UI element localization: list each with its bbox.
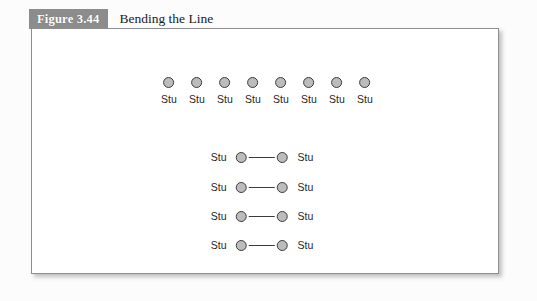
student-node-label: Stu (357, 93, 373, 105)
student-circle-icon (219, 77, 230, 88)
student-node-label: Stu (189, 93, 205, 105)
student-node-label: Stu (161, 93, 177, 105)
student-circle-icon (191, 77, 202, 88)
student-circle-icon (331, 77, 342, 88)
student-node-label: Stu (301, 93, 317, 105)
student-pair-row-1[interactable]: StuStu (211, 151, 314, 163)
student-circle-icon (236, 182, 247, 193)
student-pair-row-2[interactable]: StuStu (211, 181, 314, 193)
pair-right-label: Stu (298, 239, 314, 251)
student-circle-icon (236, 211, 247, 222)
student-pair-row-4[interactable]: StuStu (211, 239, 314, 251)
pair-left-label: Stu (211, 151, 227, 163)
student-circle-icon (277, 152, 288, 163)
student-node-label: Stu (245, 93, 261, 105)
pair-right-label: Stu (298, 151, 314, 163)
student-node-top-4[interactable]: Stu (245, 77, 261, 105)
student-circle-icon (277, 240, 288, 251)
student-circle-icon (247, 77, 258, 88)
pair-left-label: Stu (211, 210, 227, 222)
student-node-top-6[interactable]: Stu (301, 77, 317, 105)
student-node-top-3[interactable]: Stu (217, 77, 233, 105)
student-node-label: Stu (273, 93, 289, 105)
figure-header: Figure 3.44 Bending the Line (29, 9, 213, 29)
student-circle-icon (275, 77, 286, 88)
pair-left-label: Stu (211, 181, 227, 193)
student-circle-icon (303, 77, 314, 88)
pair-connector-line (249, 187, 275, 188)
student-node-top-2[interactable]: Stu (189, 77, 205, 105)
student-circle-icon (163, 77, 174, 88)
student-circle-icon (236, 152, 247, 163)
pair-right-label: Stu (298, 210, 314, 222)
figure-number-badge: Figure 3.44 (29, 9, 108, 29)
pair-right-label: Stu (298, 181, 314, 193)
student-circle-icon (277, 182, 288, 193)
student-node-top-7[interactable]: Stu (329, 77, 345, 105)
student-node-label: Stu (329, 93, 345, 105)
student-node-label: Stu (217, 93, 233, 105)
figure-title: Bending the Line (108, 9, 213, 29)
student-circle-icon (236, 240, 247, 251)
pair-connector-line (249, 245, 275, 246)
student-node-top-5[interactable]: Stu (273, 77, 289, 105)
student-circle-icon (359, 77, 370, 88)
pair-connector-line (249, 157, 275, 158)
student-circle-icon (277, 211, 288, 222)
student-node-top-8[interactable]: Stu (357, 77, 373, 105)
student-pair-row-3[interactable]: StuStu (211, 210, 314, 222)
pair-connector-line (249, 216, 275, 217)
student-node-top-1[interactable]: Stu (161, 77, 177, 105)
pair-left-label: Stu (211, 239, 227, 251)
